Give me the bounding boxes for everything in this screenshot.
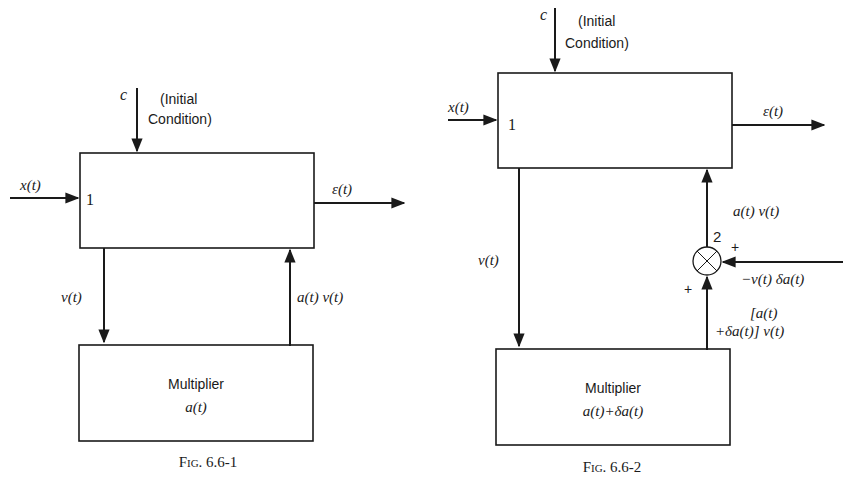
fig2-side-plus-sign: + [731,239,739,255]
fig1-multiplier-expression: a(t) [185,399,207,416]
fig2-top-block [498,73,732,168]
fig2-multiplier-expression: a(t)+δa(t) [583,403,643,420]
fig2-port-2-label: 2 [713,228,721,245]
fig2-output-label: ε(t) [763,103,783,120]
fig1-initial-condition-label-1: (Initial [160,91,197,107]
fig2-multiplier-output-label-2: +δa(t)] v(t) [715,323,784,340]
figure-6-6-2: 1 c (Initial Condition) x(t) ε(t) v(t) 2… [447,6,843,475]
fig1-multiplier-block [79,345,313,441]
diagram-canvas: 1 c (Initial Condition) x(t) ε(t) v(t) a… [0,0,854,484]
fig1-initial-condition-label-2: Condition) [148,111,212,127]
fig2-side-input-label: −v(t) δa(t) [741,271,804,288]
fig1-initial-condition-symbol: c [120,86,127,103]
fig2-initial-condition-label-1: (Initial [578,13,615,29]
fig1-input-label: x(t) [19,177,41,194]
figure-6-6-1: 1 c (Initial Condition) x(t) ε(t) v(t) a… [10,86,404,470]
fig2-multiplier-block [496,349,730,445]
fig2-port-1-label: 1 [508,116,516,133]
fig1-output-label: ε(t) [332,181,352,198]
fig2-multiplier-output-label-1: [a(t) [750,305,778,322]
fig2-initial-condition-label-2: Condition) [565,35,629,51]
fig1-caption: Fig. 6.6-1 [179,454,238,470]
fig2-caption: Fig. 6.6-2 [583,459,642,475]
fig2-input-label: x(t) [447,99,469,116]
fig1-v-label: v(t) [61,289,82,306]
fig1-top-block [80,153,314,248]
fig2-multiplier-title: Multiplier [585,380,641,396]
fig2-bottom-plus-sign: + [684,281,692,297]
fig1-av-label: a(t) v(t) [297,289,343,306]
fig1-multiplier-title: Multiplier [168,376,224,392]
fig2-v-label: v(t) [478,252,499,269]
fig2-av-label: a(t) v(t) [733,203,779,220]
fig2-initial-condition-symbol: c [540,6,547,23]
fig1-port-1-label: 1 [86,191,94,208]
